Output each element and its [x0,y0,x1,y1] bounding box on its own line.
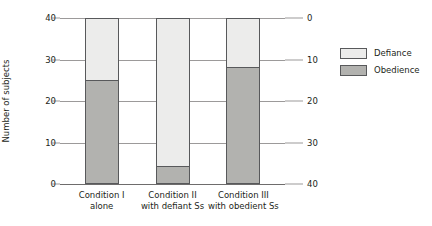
bar-1-segment-obedience [86,81,118,184]
bar-2-segment-obedience [157,167,189,183]
legend-label-obedience: Obedience [374,66,420,75]
y2-axis-tick-label-40: 40 [307,180,318,189]
bar-3 [226,18,260,184]
plot-area: 010203040010203040 [60,18,285,184]
y2-axis-tick-label-0: 0 [307,14,312,23]
y2-axis-tick-mark-30 [285,142,303,143]
y-axis-tick-label-0: 0 [51,180,56,189]
y-axis-tick-label-20: 20 [45,97,56,106]
legend-swatch-defiance [340,48,367,59]
bar-2-segment-defiance [157,19,189,167]
bar-1 [85,18,119,184]
bar-2 [156,18,190,184]
legend-swatch-obedience [340,65,367,76]
y-axis-tick-label-10: 10 [45,138,56,147]
y2-axis-tick-mark-10 [285,59,303,60]
chart-figure: Number of subjects 010203040010203040 Co… [0,0,432,226]
y2-axis-tick-mark-20 [285,101,303,102]
legend-item-defiance: Defiance [340,45,420,62]
y-axis-title: Number of subjects [1,60,11,143]
y2-axis-tick-mark-0 [285,18,303,19]
category-label-line: with obedient Ss [188,201,298,212]
y-axis-tick-label-40: 40 [45,14,56,23]
bar-3-segment-defiance [227,19,259,68]
y2-axis-tick-label-10: 10 [307,55,318,64]
bar-1-segment-defiance [86,19,118,81]
y2-axis-tick-mark-40 [285,184,303,185]
y2-axis-tick-label-30: 30 [307,138,318,147]
y2-axis-tick-label-20: 20 [307,97,318,106]
legend-label-defiance: Defiance [374,49,412,58]
y-axis-tick-label-30: 30 [45,55,56,64]
gridline-y-0 [60,184,285,185]
category-label-3: Condition IIIwith obedient Ss [188,190,298,212]
category-label-line: Condition III [188,190,298,201]
chart-legend: DefianceObedience [340,45,420,79]
legend-item-obedience: Obedience [340,62,420,79]
bar-3-segment-obedience [227,68,259,183]
